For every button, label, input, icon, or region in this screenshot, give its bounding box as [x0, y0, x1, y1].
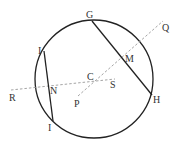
label-C: C — [87, 71, 94, 82]
label-I-top: I — [38, 45, 41, 56]
label-I-bottom: I — [48, 122, 51, 133]
dashed-line-PQ — [78, 21, 163, 96]
geometry-diagram: G H M Q P C S R N I I — [0, 0, 180, 148]
label-M: M — [125, 53, 134, 64]
label-S: S — [110, 79, 116, 90]
dashed-line-RS — [11, 79, 115, 90]
label-P: P — [74, 98, 80, 109]
label-N: N — [50, 85, 57, 96]
label-R: R — [9, 92, 16, 103]
chord-GH — [92, 21, 152, 95]
label-G: G — [86, 9, 93, 20]
label-H: H — [153, 94, 160, 105]
label-Q: Q — [162, 22, 170, 33]
